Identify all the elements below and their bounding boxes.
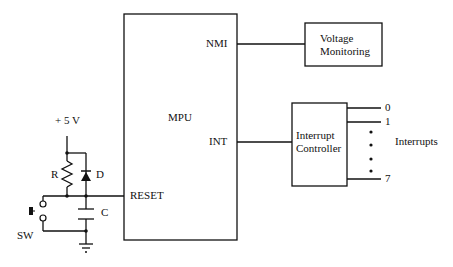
interrupt-ellipsis-icon bbox=[369, 130, 372, 172]
switch-label: SW bbox=[17, 229, 34, 241]
interrupt-0-label: 0 bbox=[385, 101, 391, 113]
diode-icon bbox=[81, 171, 91, 181]
interrupt-1-label: 1 bbox=[385, 115, 391, 127]
supply-label: + 5 V bbox=[55, 114, 80, 126]
interrupt-controller-label-1: Interrupt bbox=[296, 129, 334, 141]
junction-dots bbox=[65, 151, 88, 233]
switch-icon bbox=[29, 201, 46, 221]
ground-icon bbox=[79, 244, 93, 252]
interrupt-controller-label-2: Controller bbox=[296, 142, 342, 154]
capacitor-label: C bbox=[101, 206, 108, 218]
resistor-icon bbox=[62, 161, 72, 187]
interrupt-7-label: 7 bbox=[385, 172, 391, 184]
resistor-label: R bbox=[51, 168, 59, 180]
int-pin-label: INT bbox=[209, 135, 228, 147]
diode-label: D bbox=[96, 168, 104, 180]
nmi-pin-label: NMI bbox=[206, 37, 228, 49]
reset-pin-label: RESET bbox=[130, 189, 164, 201]
mpu-label: MPU bbox=[168, 111, 192, 123]
circuit-diagram: MPU NMI INT RESET Voltage Monitoring Int… bbox=[0, 0, 453, 267]
voltage-monitoring-label-1: Voltage bbox=[320, 32, 354, 44]
voltage-monitoring-label-2: Monitoring bbox=[320, 45, 371, 57]
interrupts-label: Interrupts bbox=[395, 135, 438, 147]
